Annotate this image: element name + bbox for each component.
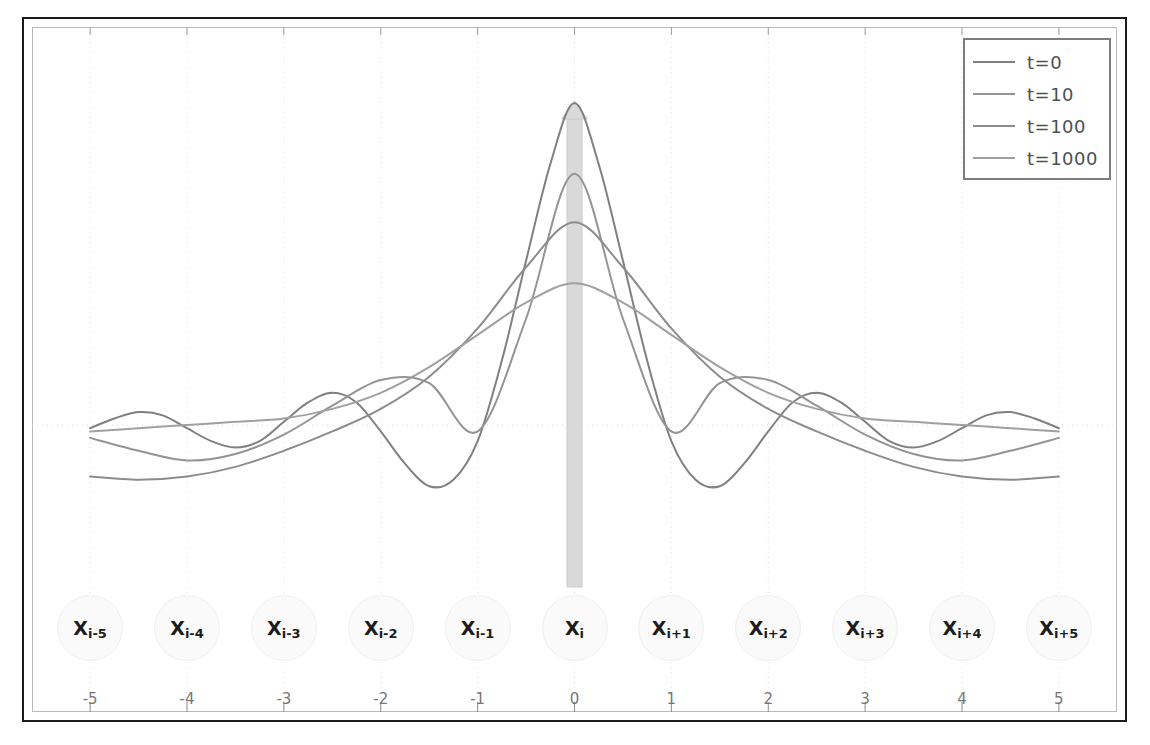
legend-entry-label: t=1000 — [1027, 148, 1098, 169]
chart-legend: t=0 t=10 t=100 t=1000 — [963, 38, 1111, 180]
x-tick-label: 3 — [845, 690, 885, 708]
x-tick-label: -5 — [70, 690, 110, 708]
lattice-node[interactable]: Xi-4 — [154, 595, 220, 661]
lattice-node-subscript: i+3 — [860, 626, 884, 641]
lattice-node-label: Xi+1 — [652, 619, 691, 638]
legend-line-swatch — [973, 157, 1015, 159]
lattice-node[interactable]: Xi-1 — [445, 595, 511, 661]
lattice-node[interactable]: Xi+1 — [638, 595, 704, 661]
lattice-node-subscript: i-1 — [476, 626, 495, 641]
lattice-node-label: Xi-4 — [170, 619, 204, 638]
lattice-node[interactable]: Xi — [542, 595, 608, 661]
lattice-node-subscript: i+5 — [1054, 626, 1078, 641]
legend-entry[interactable]: t=10 — [973, 78, 1101, 110]
lattice-node-label: Xi+5 — [1039, 619, 1078, 638]
legend-entry[interactable]: t=0 — [973, 46, 1101, 78]
lattice-node-subscript: i — [580, 626, 584, 641]
lattice-node-subscript: i+2 — [763, 626, 787, 641]
lattice-node-label: Xi+3 — [846, 619, 885, 638]
lattice-node-label: Xi-3 — [267, 619, 301, 638]
x-tick-label: 5 — [1039, 690, 1079, 708]
legend-entry-label: t=100 — [1027, 116, 1086, 137]
legend-entry[interactable]: t=100 — [973, 110, 1101, 142]
x-tick-label: 1 — [651, 690, 691, 708]
x-tick-label: 2 — [748, 690, 788, 708]
legend-entry-label: t=10 — [1027, 84, 1074, 105]
legend-entry[interactable]: t=1000 — [973, 142, 1101, 174]
lattice-node-subscript: i-3 — [282, 626, 301, 641]
lattice-node[interactable]: Xi+5 — [1026, 595, 1092, 661]
x-tick-label: -2 — [361, 690, 401, 708]
legend-line-swatch — [973, 93, 1015, 95]
lattice-node-label: Xi — [565, 619, 584, 638]
x-tick-label: -3 — [264, 690, 304, 708]
lattice-node[interactable]: Xi+3 — [832, 595, 898, 661]
x-tick-label: -4 — [167, 690, 207, 708]
lattice-node-label: Xi+2 — [749, 619, 788, 638]
lattice-node[interactable]: Xi+4 — [929, 595, 995, 661]
lattice-node-subscript: i-4 — [185, 626, 204, 641]
legend-line-swatch — [973, 125, 1015, 127]
lattice-node-label: Xi-1 — [461, 619, 495, 638]
lattice-node-label: Xi-5 — [73, 619, 107, 638]
legend-entry-label: t=0 — [1027, 52, 1062, 73]
lattice-node-label: Xi+4 — [942, 619, 981, 638]
lattice-node-subscript: i-2 — [379, 626, 398, 641]
x-tick-label: 0 — [555, 690, 595, 708]
lattice-node[interactable]: Xi+2 — [735, 595, 801, 661]
x-tick-label: 4 — [942, 690, 982, 708]
lattice-node[interactable]: Xi-3 — [251, 595, 317, 661]
legend-line-swatch — [973, 61, 1015, 63]
lattice-node[interactable]: Xi-5 — [57, 595, 123, 661]
lattice-node-subscript: i-5 — [88, 626, 107, 641]
figure-root: Xi-5Xi-4Xi-3Xi-2Xi-1XiXi+1Xi+2Xi+3Xi+4Xi… — [0, 0, 1150, 745]
lattice-node-subscript: i+1 — [667, 626, 691, 641]
lattice-node[interactable]: Xi-2 — [348, 595, 414, 661]
x-tick-label: -1 — [458, 690, 498, 708]
lattice-node-label: Xi-2 — [364, 619, 398, 638]
lattice-node-subscript: i+4 — [957, 626, 981, 641]
